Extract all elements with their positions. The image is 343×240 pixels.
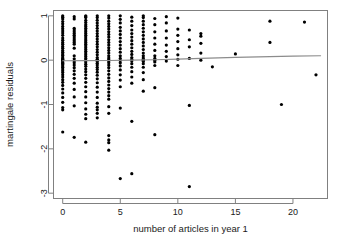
data-point — [61, 96, 64, 99]
data-point — [96, 74, 99, 77]
data-point — [73, 47, 76, 50]
data-point — [119, 18, 122, 21]
data-point — [107, 98, 110, 101]
data-point — [84, 77, 87, 80]
data-point — [61, 130, 64, 133]
data-point — [142, 30, 145, 33]
data-point — [176, 53, 179, 56]
data-point — [107, 134, 110, 137]
data-point — [199, 59, 202, 62]
data-point — [73, 77, 76, 80]
data-point — [61, 101, 64, 104]
data-point — [303, 20, 306, 23]
data-point — [61, 81, 64, 84]
data-point — [73, 82, 76, 85]
data-point — [119, 43, 122, 46]
plot-canvas: 10-1-2-305101520number of articles in ye… — [0, 0, 343, 240]
data-point — [84, 95, 87, 98]
data-point — [107, 105, 110, 108]
data-point — [268, 20, 271, 23]
y-axis-title: martingale residuals — [4, 62, 15, 147]
data-point — [84, 113, 87, 116]
x-tick-label: 15 — [230, 207, 240, 217]
data-point — [84, 101, 87, 104]
data-point — [96, 81, 99, 84]
data-point — [130, 36, 133, 39]
data-point — [142, 90, 145, 93]
data-point — [61, 108, 64, 111]
data-point — [73, 43, 76, 46]
data-point — [130, 32, 133, 35]
data-point — [107, 83, 110, 86]
data-point — [142, 37, 145, 40]
data-point — [73, 73, 76, 76]
data-point — [96, 77, 99, 80]
data-point — [153, 43, 156, 46]
data-point — [119, 33, 122, 36]
data-point — [96, 116, 99, 119]
data-point — [211, 65, 214, 68]
data-point — [119, 79, 122, 82]
data-point — [107, 141, 110, 144]
data-point — [96, 90, 99, 93]
data-point — [119, 73, 122, 76]
data-point — [96, 71, 99, 74]
data-point — [61, 87, 64, 90]
data-point — [61, 84, 64, 87]
x-tick-label: 0 — [60, 207, 65, 217]
data-point — [142, 78, 145, 81]
data-point — [130, 70, 133, 73]
data-point — [107, 76, 110, 79]
data-point — [153, 17, 156, 20]
data-point — [153, 30, 156, 33]
data-point — [176, 34, 179, 37]
data-point — [176, 28, 179, 31]
data-point — [130, 120, 133, 123]
data-point — [188, 104, 191, 107]
data-point — [165, 36, 168, 39]
data-point — [130, 82, 133, 85]
data-point — [130, 53, 133, 56]
data-point — [84, 73, 87, 76]
data-point — [119, 68, 122, 71]
data-point — [130, 20, 133, 23]
data-point — [176, 40, 179, 43]
data-point — [153, 64, 156, 67]
data-point — [96, 86, 99, 89]
data-point — [165, 43, 168, 46]
data-point — [130, 24, 133, 27]
data-point — [119, 14, 122, 17]
data-point — [130, 66, 133, 69]
y-tick-label: -1 — [39, 100, 49, 108]
data-point — [142, 27, 145, 30]
data-point — [119, 36, 122, 39]
data-point — [188, 185, 191, 188]
data-point — [107, 66, 110, 69]
data-point — [73, 104, 76, 107]
data-point — [130, 16, 133, 19]
data-point — [130, 62, 133, 65]
data-point — [84, 141, 87, 144]
data-point — [96, 96, 99, 99]
data-point — [165, 29, 168, 32]
data-point — [84, 70, 87, 73]
data-point — [119, 106, 122, 109]
data-point — [61, 91, 64, 94]
data-point — [96, 108, 99, 111]
x-axis-title: number of articles in year 1 — [133, 223, 248, 234]
data-point — [268, 41, 271, 44]
data-point — [119, 177, 122, 180]
data-point — [142, 41, 145, 44]
data-point — [165, 21, 168, 24]
x-tick-label: 20 — [288, 207, 298, 217]
data-point — [84, 117, 87, 120]
data-point — [73, 54, 76, 57]
data-point — [119, 26, 122, 29]
data-point — [188, 38, 191, 41]
data-point — [73, 88, 76, 91]
data-point — [280, 103, 283, 106]
data-point — [130, 43, 133, 46]
data-point — [84, 107, 87, 110]
data-point — [130, 39, 133, 42]
data-point — [130, 46, 133, 49]
